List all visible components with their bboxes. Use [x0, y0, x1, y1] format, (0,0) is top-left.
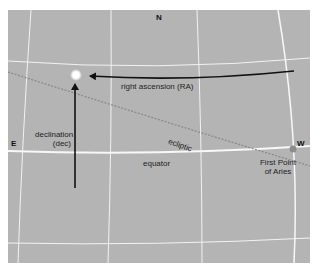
- dec-label-line2: (dec): [35, 139, 71, 148]
- east-label: E: [11, 139, 16, 148]
- dec-line-upper: [8, 58, 310, 66]
- meridian-4: [278, 10, 295, 263]
- sky-panel: N E W right ascension (RA) declination (…: [8, 10, 310, 263]
- meridian-2: [108, 10, 111, 263]
- equator-label: equator: [143, 159, 170, 168]
- dec-line-lower: [8, 238, 310, 244]
- ra-label: right ascension (RA): [121, 82, 193, 91]
- dec-label-line1: declination: [35, 130, 71, 139]
- ra-arrow: [90, 71, 294, 78]
- west-label: W: [297, 139, 305, 148]
- north-label: N: [156, 13, 162, 22]
- aries-label-line1: First Point: [256, 158, 300, 167]
- star-icon: [70, 69, 82, 81]
- meridian-3: [197, 10, 202, 263]
- aries-label-line2: of Aries: [256, 167, 300, 176]
- meridian-1: [18, 10, 31, 263]
- aries-marker-icon: [290, 146, 297, 153]
